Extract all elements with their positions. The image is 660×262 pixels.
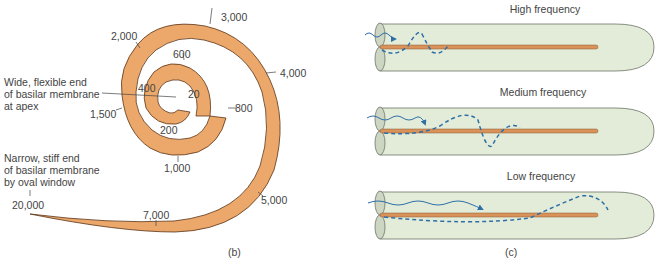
row-title-medium: Medium frequency	[468, 86, 618, 98]
tube-medium-frequency	[367, 107, 654, 155]
tube-low-frequency	[368, 191, 654, 239]
row-title-high: High frequency	[480, 3, 610, 15]
traveling-wave-panels	[0, 0, 660, 262]
row-title-low: Low frequency	[476, 170, 606, 182]
tube-high-frequency	[365, 23, 654, 71]
panel-c-caption: (c)	[505, 246, 517, 258]
